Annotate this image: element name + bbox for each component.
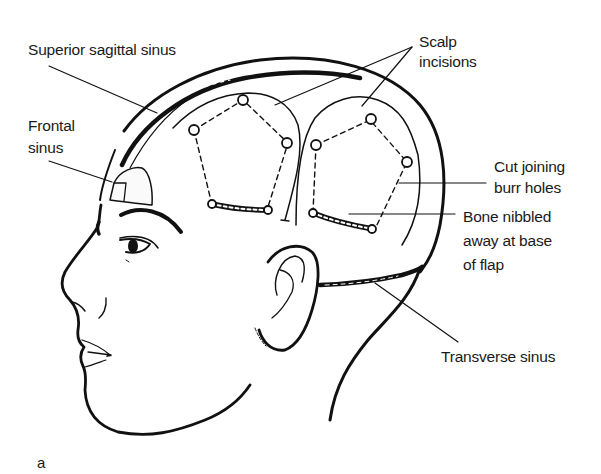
label-superior-sagittal-sinus: Superior sagittal sinus (28, 40, 176, 59)
eyebrow (121, 210, 181, 232)
burr-hole (282, 138, 292, 148)
leader-scalp-incision-2 (362, 47, 412, 106)
pupil (128, 239, 138, 253)
leader-scalp-incision-1 (275, 47, 412, 105)
left-scalp-incision (173, 93, 300, 220)
superior-sagittal-sinus (122, 73, 360, 165)
label-frontal-sinus-line1: Frontal (28, 116, 75, 135)
face-profile (62, 205, 250, 434)
right-scalp-incision (296, 97, 420, 245)
burr-hole (402, 157, 412, 167)
transverse-sinus (320, 267, 422, 285)
label-scalp-incisions-line2: incisions (419, 52, 477, 71)
burr-hole (311, 140, 321, 150)
left-flap-cut (194, 100, 288, 207)
nose-crease (99, 298, 106, 318)
skull-outline (124, 58, 444, 272)
panel-letter: a (37, 454, 45, 471)
label-bone-nibbled-line1: Bone nibbled (463, 207, 551, 226)
burr-hole (366, 114, 376, 124)
right-flap-cut (313, 120, 407, 229)
label-cut-joining-line1: Cut joining (494, 157, 565, 176)
frontal-sinus (110, 168, 152, 205)
burr-hole (238, 95, 248, 105)
label-bone-nibbled-line2: away at base (463, 231, 552, 250)
leader-frontal-sinus (49, 161, 112, 182)
craniotomy-diagram: Superior sagittal sinus Frontal sinus Sc… (0, 0, 601, 474)
label-frontal-sinus-line2: sinus (28, 138, 63, 157)
label-bone-nibbled-line3: of flap (463, 255, 504, 274)
label-cut-joining-line2: burr holes (494, 178, 561, 197)
label-scalp-incisions-line1: Scalp (419, 32, 457, 51)
right-nibbled-base (313, 213, 373, 229)
leader-transverse-sinus (375, 283, 458, 342)
lower-lip (85, 360, 106, 367)
sinus-inner-edge (130, 98, 190, 168)
label-transverse-sinus: Transverse sinus (441, 347, 555, 366)
neck-outline (330, 268, 420, 420)
burr-hole (189, 125, 199, 135)
leader-superior-sagittal-sinus (49, 66, 157, 113)
